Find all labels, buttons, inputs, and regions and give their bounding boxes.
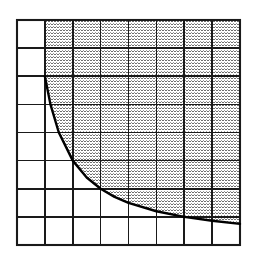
grid-curve-figure [0, 0, 256, 255]
figure-container [0, 0, 256, 255]
